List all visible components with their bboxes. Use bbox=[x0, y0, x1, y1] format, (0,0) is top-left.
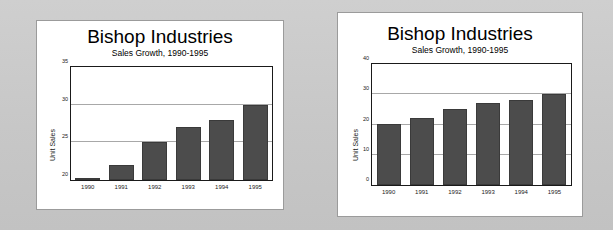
bottom-white-strip bbox=[0, 230, 613, 241]
x-tick-label: 1995 bbox=[548, 189, 561, 195]
chart-left-ylabel: Unit Sales bbox=[49, 129, 56, 161]
y-tick-label: 20 bbox=[363, 116, 372, 122]
y-tick-label: 35 bbox=[62, 58, 71, 64]
y-tick-label: 25 bbox=[62, 133, 71, 139]
chart-right-subtitle: Sales Growth, 1990-1995 bbox=[338, 45, 582, 55]
chart-panel-left: Bishop Industries Sales Growth, 1990-199… bbox=[36, 20, 284, 210]
chart-right-ylabel: Unit Sales bbox=[352, 129, 359, 161]
chart-right-header: Bishop Industries Sales Growth, 1990-199… bbox=[338, 23, 582, 55]
bar bbox=[410, 118, 434, 185]
y-tick-label: 0 bbox=[366, 176, 372, 182]
x-tick-label: 1991 bbox=[415, 189, 428, 195]
bar bbox=[243, 105, 268, 180]
y-tick-label: 30 bbox=[62, 96, 71, 102]
bar bbox=[176, 127, 201, 180]
x-tick-label: 1993 bbox=[481, 189, 494, 195]
x-tick-label: 1991 bbox=[115, 184, 128, 190]
chart-right-bars bbox=[372, 64, 571, 185]
bar bbox=[75, 178, 100, 180]
x-tick-label: 1993 bbox=[182, 184, 195, 190]
bar bbox=[377, 124, 401, 185]
x-tick-label: 1992 bbox=[448, 189, 461, 195]
chart-left-subtitle: Sales Growth, 1990-1995 bbox=[37, 48, 283, 58]
chart-panel-right: Bishop Industries Sales Growth, 1990-199… bbox=[337, 12, 583, 217]
bar bbox=[109, 165, 134, 180]
bar bbox=[542, 94, 566, 185]
chart-right-title: Bishop Industries bbox=[338, 23, 582, 44]
bar bbox=[142, 142, 167, 180]
bar bbox=[509, 100, 533, 185]
chart-right-plot-area: 010203040 199019911992199319941995 bbox=[371, 63, 572, 186]
x-tick-label: 1994 bbox=[215, 184, 228, 190]
chart-left-title: Bishop Industries bbox=[37, 26, 283, 47]
chart-left-header: Bishop Industries Sales Growth, 1990-199… bbox=[37, 26, 283, 58]
chart-left-bars bbox=[71, 67, 272, 180]
bar bbox=[476, 103, 500, 185]
bar bbox=[443, 109, 467, 185]
bar bbox=[209, 120, 234, 180]
chart-left-plot-area: 20253035 199019911992199319941995 bbox=[70, 66, 273, 181]
y-tick-label: 30 bbox=[363, 85, 372, 91]
screenshot-root: Bishop Industries Sales Growth, 1990-199… bbox=[0, 0, 613, 241]
x-tick-label: 1992 bbox=[148, 184, 161, 190]
y-tick-label: 10 bbox=[363, 146, 372, 152]
x-tick-label: 1990 bbox=[81, 184, 94, 190]
y-tick-label: 40 bbox=[363, 55, 372, 61]
y-tick-label: 20 bbox=[62, 171, 71, 177]
x-tick-label: 1995 bbox=[249, 184, 262, 190]
x-tick-label: 1990 bbox=[382, 189, 395, 195]
x-tick-label: 1994 bbox=[515, 189, 528, 195]
